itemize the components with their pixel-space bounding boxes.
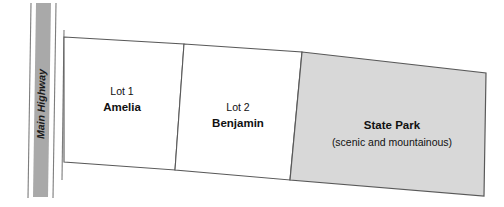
map-canvas: Main Highway Lot 1 Amelia Lot 2 Benjamin… — [0, 0, 504, 207]
lot-1-owner-label: Amelia — [103, 101, 141, 113]
parcel-lot-2[interactable]: Lot 2 Benjamin — [175, 44, 302, 180]
main-highway-label: Main Highway — [34, 68, 47, 139]
state-park-title-label: State Park — [364, 119, 421, 131]
parcel-state-park[interactable]: State Park (scenic and mountainous) — [290, 52, 486, 196]
lot-2-number-label: Lot 2 — [226, 101, 250, 113]
main-highway-group: Main Highway — [28, 3, 64, 198]
state-park-description-label: (scenic and mountainous) — [332, 136, 452, 148]
parcel-lot-1[interactable]: Lot 1 Amelia — [64, 37, 184, 170]
lot-2-owner-label: Benjamin — [212, 117, 264, 129]
main-highway-left-edge — [28, 3, 31, 198]
lot-1-number-label: Lot 1 — [110, 85, 134, 97]
lot-map-diagram: Main Highway Lot 1 Amelia Lot 2 Benjamin… — [0, 0, 504, 207]
main-highway-right-edge — [53, 3, 56, 198]
